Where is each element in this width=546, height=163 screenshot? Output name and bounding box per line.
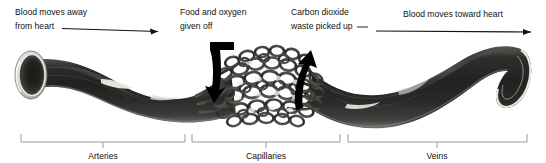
annotation-left-flow: Blood moves away from heart — [15, 7, 158, 35]
blood-vessel-figure: Blood moves away from heart Food and oxy… — [0, 0, 546, 163]
annotation-food-oxygen: Food and oxygen given off — [180, 7, 247, 31]
left-flow-label-line1: Blood moves away — [15, 7, 88, 17]
diagram-canvas: Blood moves away from heart Food and oxy… — [0, 0, 546, 163]
section-bracket-arteries: Arteries — [21, 134, 185, 161]
left-flow-arrow-icon — [62, 29, 158, 35]
right-flow-arrow-icon — [376, 29, 531, 35]
section-bracket-veins: Veins — [348, 134, 527, 161]
right-flow-label: Blood moves toward heart — [403, 9, 503, 19]
food-oxygen-label-line2: given off — [180, 21, 213, 31]
food-oxygen-label-line1: Food and oxygen — [180, 7, 247, 17]
carbon-dioxide-label-line2: waste picked up — [290, 21, 353, 31]
vein-vessel — [309, 46, 531, 128]
artery-lumen — [23, 58, 43, 92]
section-label-veins: Veins — [426, 151, 447, 161]
section-label-arteries: Arteries — [88, 151, 118, 161]
annotation-right-flow: Blood moves toward heart — [376, 9, 531, 35]
left-flow-label-line2: from heart — [15, 21, 55, 31]
annotation-carbon-dioxide: Carbon dioxide waste picked up — [290, 7, 368, 31]
carbon-dioxide-label-line1: Carbon dioxide — [291, 7, 349, 17]
section-label-capillaries: Capillaries — [246, 151, 286, 161]
section-bracket-capillaries: Capillaries — [192, 134, 340, 161]
